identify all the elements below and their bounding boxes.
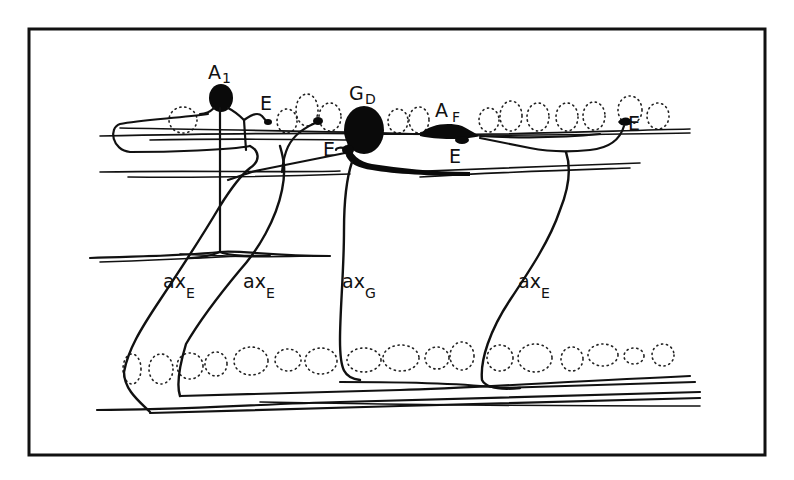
label-ax-e-3: ax E bbox=[518, 270, 550, 301]
right-e-cell bbox=[480, 118, 632, 389]
label-ax-g: ax G bbox=[342, 270, 376, 301]
svg-text:E: E bbox=[266, 285, 275, 301]
svg-text:A: A bbox=[208, 61, 221, 83]
svg-text:1: 1 bbox=[222, 70, 231, 86]
svg-text:F: F bbox=[452, 109, 460, 125]
label-e-right: E bbox=[628, 112, 640, 134]
svg-text:ax: ax bbox=[163, 270, 186, 292]
svg-text:D: D bbox=[365, 91, 376, 107]
svg-text:G: G bbox=[349, 82, 364, 104]
label-e-left-of-gd: E bbox=[323, 138, 335, 160]
label-e-below-af: E bbox=[449, 145, 461, 167]
svg-text:G: G bbox=[365, 285, 376, 301]
a1-left-process bbox=[113, 114, 250, 152]
svg-text:ax: ax bbox=[243, 270, 266, 292]
label-af: A F bbox=[435, 99, 460, 125]
label-e-top-left: E bbox=[260, 92, 272, 114]
ganglion-cell-gd bbox=[260, 106, 470, 380]
svg-text:ax: ax bbox=[342, 270, 365, 292]
neuron-diagram: A 1 E G D E A F E E ax E ax E ax G ax E bbox=[0, 0, 794, 480]
label-a1: A 1 bbox=[208, 61, 231, 86]
lower-plexiform-fibers bbox=[90, 252, 330, 262]
axon-e-1 bbox=[124, 146, 258, 412]
svg-text:ax: ax bbox=[518, 270, 541, 292]
svg-text:E: E bbox=[541, 285, 550, 301]
svg-text:A: A bbox=[435, 99, 448, 121]
lower-cell-layer bbox=[123, 342, 674, 384]
label-gd: G D bbox=[349, 82, 376, 107]
svg-text:E: E bbox=[186, 285, 195, 301]
label-ax-e-2: ax E bbox=[243, 270, 275, 301]
e-terminal-bulb bbox=[313, 117, 323, 125]
label-ax-e-1: ax E bbox=[163, 270, 195, 301]
bottom-fiber-bundle bbox=[97, 376, 700, 413]
